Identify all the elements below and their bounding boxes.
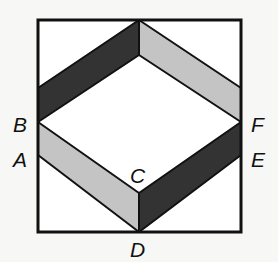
- label-e: E: [251, 148, 266, 171]
- label-f: F: [251, 113, 265, 136]
- label-b: B: [13, 113, 27, 136]
- geometry-diagram: B A C D F E: [0, 0, 278, 262]
- label-d: D: [130, 238, 145, 261]
- label-a: A: [11, 148, 27, 171]
- label-c: C: [130, 164, 146, 187]
